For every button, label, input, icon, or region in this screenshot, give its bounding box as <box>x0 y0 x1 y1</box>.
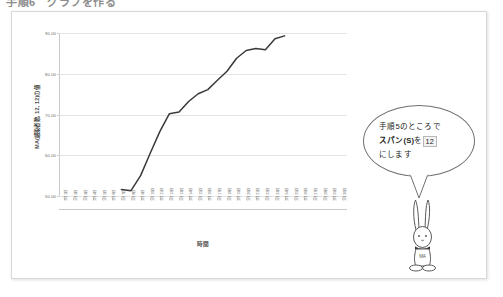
callout-bubble-text: 手順5のところで スパン(S)を12 にします <box>379 120 463 162</box>
x-tick-label: 1月19日 <box>238 187 242 202</box>
x-tick-label: 1月11日 <box>161 187 165 201</box>
x-tick-label: 1月2日 <box>75 189 79 201</box>
x-tick-label: 1月1日 <box>65 189 69 201</box>
y-axis-title: MA(感染者数, 12, 12)の値 <box>33 62 41 172</box>
clipped-heading-strip: 手順6 グラフを作る <box>0 0 503 7</box>
x-tick-label: 1月10日 <box>152 187 156 202</box>
y-tick-label: 90.00 <box>45 31 56 36</box>
x-tick-label: 1月16日 <box>209 187 213 202</box>
callout-line-2: スパン(S)を12 <box>379 134 463 148</box>
x-tick-label: 1月23日 <box>277 187 281 202</box>
callout-line-1: 手順5のところで <box>379 120 463 134</box>
x-tick-label: 1月17日 <box>219 187 223 202</box>
x-tick-label: 1月6日 <box>113 189 117 201</box>
x-tick-label: 1月24日 <box>286 187 290 202</box>
x-tick-label: 1月22日 <box>267 187 271 202</box>
x-tick-label: 1月7日 <box>123 189 127 201</box>
x-axis-title: 時間 <box>59 240 347 248</box>
x-tick-label: 1月12日 <box>171 187 175 202</box>
data-series-line <box>59 33 347 196</box>
y-tick-label: 60.00 <box>45 153 56 158</box>
y-tick-label: 80.00 <box>45 71 56 76</box>
x-tick-label: 1月26日 <box>305 187 309 202</box>
rabbit-mascot-illustration: MA <box>397 196 449 274</box>
callout-bubble: 手順5のところで スパン(S)を12 にします <box>363 105 475 177</box>
y-tick-mark <box>57 196 59 197</box>
x-tick-label: 1月29日 <box>334 187 338 202</box>
x-tick-label: 1月27日 <box>315 187 319 202</box>
rabbit-body-label: MA <box>419 254 426 259</box>
x-tick-label: 1月30日 <box>344 187 348 202</box>
x-tick-label: 1月21日 <box>257 187 261 202</box>
callout-span-term: スパン(S) <box>379 136 414 145</box>
x-tick-label: 1月3日 <box>85 189 89 201</box>
x-tick-label: 1月20日 <box>248 187 252 202</box>
x-tick-label: 1月28日 <box>325 187 329 202</box>
y-tick-label: 70.00 <box>45 112 56 117</box>
x-tick-label: 1月4日 <box>94 189 98 201</box>
x-tick-label: 1月18日 <box>229 187 233 202</box>
x-tick-label: 1月8日 <box>133 189 137 201</box>
plot-area: 90.0080.0070.0060.0050.00 <box>59 33 347 196</box>
y-tick-label: 50.00 <box>45 194 56 199</box>
x-tick-labels: 1月1日1月2日1月3日1月4日1月5日1月6日1月7日1月8日1月9日1月10… <box>59 198 347 228</box>
x-tick-label: 1月9日 <box>142 189 146 201</box>
x-tick-label: 1月5日 <box>104 189 108 201</box>
callout-line-3: にします <box>379 148 463 162</box>
x-tick-label: 1月15日 <box>200 187 204 202</box>
figure-card: MA(感染者数, 12, 12)の値 90.0080.0070.0060.005… <box>11 11 487 279</box>
x-tick-label: 1月13日 <box>181 187 185 202</box>
x-tick-label: 1月25日 <box>296 187 300 202</box>
callout-span-value: 12 <box>423 136 437 147</box>
x-tick-label: 1月14日 <box>190 187 194 202</box>
clipped-heading-text: 手順6 グラフを作る <box>6 0 116 7</box>
callout-particle: を <box>414 136 422 145</box>
